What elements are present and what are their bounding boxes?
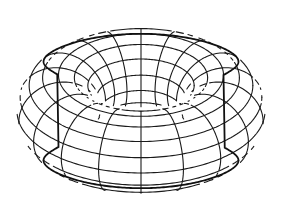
meridian-line	[191, 105, 220, 158]
meridian-line	[99, 115, 100, 117]
parallel-line	[90, 35, 94, 36]
meridian-line	[94, 103, 98, 104]
parallel-line	[203, 89, 204, 91]
parallel-line	[231, 58, 233, 60]
meridian-line	[255, 80, 258, 85]
meridian-line	[177, 169, 183, 190]
parallel-line	[98, 117, 99, 119]
parallel-line	[28, 146, 30, 149]
meridian-line	[200, 84, 206, 86]
meridian-line	[182, 115, 183, 117]
meridian-line	[219, 158, 221, 170]
meridian-line	[76, 84, 82, 86]
meridian-line	[99, 169, 105, 190]
parallel-line	[176, 32, 183, 34]
meridian-line	[184, 103, 188, 104]
meridian-line	[92, 84, 96, 89]
meridian-line	[19, 82, 73, 122]
parallel-line	[79, 38, 83, 40]
parallel-line	[194, 97, 195, 98]
parallel-line	[114, 108, 119, 109]
meridian-line	[69, 179, 70, 180]
parallel-line	[183, 117, 184, 119]
parallel-line	[251, 146, 253, 149]
parallel-line	[188, 35, 192, 36]
figure-canvas	[0, 0, 281, 217]
meridian-line	[34, 94, 88, 142]
meridian-line	[61, 105, 90, 158]
parallel-line	[173, 106, 176, 107]
parallel-line	[188, 101, 189, 102]
torus-wireframe-diagram	[0, 0, 281, 217]
parallel-line	[106, 106, 109, 107]
parallel-line	[205, 78, 207, 87]
parallel-line	[49, 58, 51, 60]
meridian-line	[46, 53, 106, 101]
parallel-line	[193, 86, 194, 92]
parallel-line	[199, 38, 203, 40]
parallel-line	[163, 108, 168, 109]
meridian-line	[61, 158, 63, 170]
meridian-line	[210, 82, 264, 122]
parallel-line	[93, 101, 94, 102]
meridian-line	[194, 94, 248, 142]
parallel-line	[87, 97, 88, 98]
meridian-line	[177, 53, 237, 101]
parallel-line	[78, 89, 79, 91]
meridian-line	[23, 80, 26, 85]
parallel-line	[99, 32, 106, 34]
meridian-line	[187, 84, 191, 89]
parallel-line	[122, 110, 160, 111]
meridian-line	[212, 179, 213, 180]
